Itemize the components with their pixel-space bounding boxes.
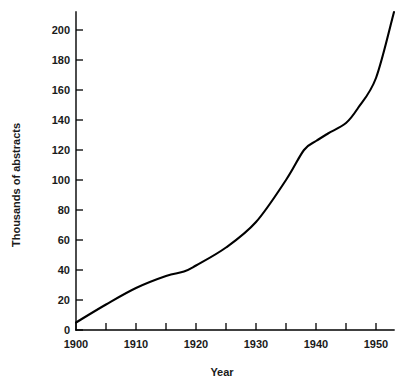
y-tick-label: 140	[52, 114, 70, 126]
chart-figure: Thousands of abstracts Year 0 20 40 60	[0, 0, 405, 384]
y-tick-label: 180	[52, 54, 70, 66]
x-tick-1930: 1930	[244, 323, 268, 350]
y-axis-title: Thousands of abstracts	[10, 123, 22, 247]
y-tick-120: 120	[52, 144, 83, 156]
x-tick-1940: 1940	[304, 323, 328, 350]
y-tick-label: 60	[58, 234, 70, 246]
x-tick-label: 1930	[244, 338, 268, 350]
x-tick-1950: 1950	[364, 323, 388, 350]
x-tick-1910: 1910	[124, 323, 148, 350]
y-tick-0: 0	[64, 324, 83, 336]
y-tick-140: 140	[52, 114, 83, 126]
y-tick-label: 80	[58, 204, 70, 216]
y-tick-20: 20	[58, 294, 83, 306]
y-tick-label: 20	[58, 294, 70, 306]
y-tick-label: 100	[52, 174, 70, 186]
y-tick-label: 120	[52, 144, 70, 156]
x-tick-label: 1950	[364, 338, 388, 350]
y-tick-100: 100	[52, 174, 83, 186]
x-tick-label: 1900	[64, 338, 88, 350]
x-axis-minor-ticks	[106, 323, 346, 330]
y-tick-label: 200	[52, 24, 70, 36]
x-tick-1920: 1920	[184, 323, 208, 350]
y-tick-80: 80	[58, 204, 83, 216]
x-axis-title: Year	[210, 366, 234, 378]
y-tick-200: 200	[52, 24, 83, 36]
y-axis-ticks: 0 20 40 60 80 100	[52, 24, 83, 336]
y-tick-160: 160	[52, 84, 83, 96]
x-tick-label: 1940	[304, 338, 328, 350]
y-tick-label: 160	[52, 84, 70, 96]
x-tick-label: 1910	[124, 338, 148, 350]
y-tick-label: 40	[58, 264, 70, 276]
data-series-line	[76, 12, 394, 323]
y-tick-40: 40	[58, 264, 83, 276]
y-tick-label: 0	[64, 324, 70, 336]
x-tick-label: 1920	[184, 338, 208, 350]
y-tick-180: 180	[52, 54, 83, 66]
y-tick-60: 60	[58, 234, 83, 246]
line-chart-canvas: Thousands of abstracts Year 0 20 40 60	[0, 0, 405, 384]
